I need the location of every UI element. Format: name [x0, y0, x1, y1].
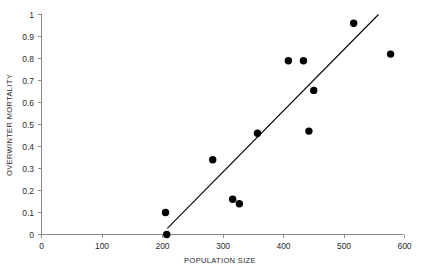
trendline — [167, 15, 378, 229]
x-tick-label: 200 — [155, 241, 169, 251]
y-tick-label: 0.3 — [22, 164, 34, 174]
x-tick-label: 300 — [216, 241, 230, 251]
y-tick-label: 0.1 — [22, 208, 34, 218]
y-tick-label: 0.6 — [22, 98, 34, 108]
data-point — [310, 87, 317, 94]
data-point — [305, 127, 312, 134]
data-point — [209, 156, 216, 163]
y-tick-label: 0 — [29, 230, 34, 240]
data-point — [350, 20, 357, 27]
x-tick-label: 600 — [397, 241, 411, 251]
x-axis-title: POPULATION SIZE — [184, 256, 256, 265]
data-point — [162, 209, 169, 216]
scatter-plot-figure: 1 0.9 0.8 0.7 0.6 0.5 0.4 0.3 0.2 0.1 0 … — [0, 0, 425, 271]
data-point — [163, 231, 170, 238]
x-axis-tick-labels: 0 100 200 300 400 500 600 — [39, 241, 412, 251]
y-axis-ticks — [38, 15, 42, 235]
y-tick-label: 0.9 — [22, 32, 34, 42]
data-points-group — [162, 20, 394, 239]
data-point — [254, 130, 261, 137]
y-tick-label: 0.7 — [22, 76, 34, 86]
y-axis-tick-labels: 1 0.9 0.8 0.7 0.6 0.5 0.4 0.3 0.2 0.1 0 — [22, 10, 34, 240]
x-axis-ticks — [42, 235, 405, 239]
x-tick-label: 400 — [276, 241, 290, 251]
y-tick-label: 0.2 — [22, 186, 34, 196]
x-tick-label: 100 — [95, 241, 109, 251]
y-tick-label: 0.4 — [22, 142, 34, 152]
data-point — [387, 50, 394, 57]
x-tick-label: 500 — [337, 241, 351, 251]
plot-area: 1 0.9 0.8 0.7 0.6 0.5 0.4 0.3 0.2 0.1 0 … — [0, 0, 425, 271]
x-tick-label: 0 — [39, 241, 44, 251]
y-tick-label: 1 — [29, 10, 34, 20]
y-axis-title: OVERWINTER MORTALITY — [5, 74, 14, 176]
y-tick-label: 0.5 — [22, 120, 34, 130]
data-point — [229, 196, 236, 203]
data-point — [236, 200, 243, 207]
data-point — [300, 57, 307, 64]
data-point — [285, 57, 292, 64]
y-tick-label: 0.8 — [22, 54, 34, 64]
